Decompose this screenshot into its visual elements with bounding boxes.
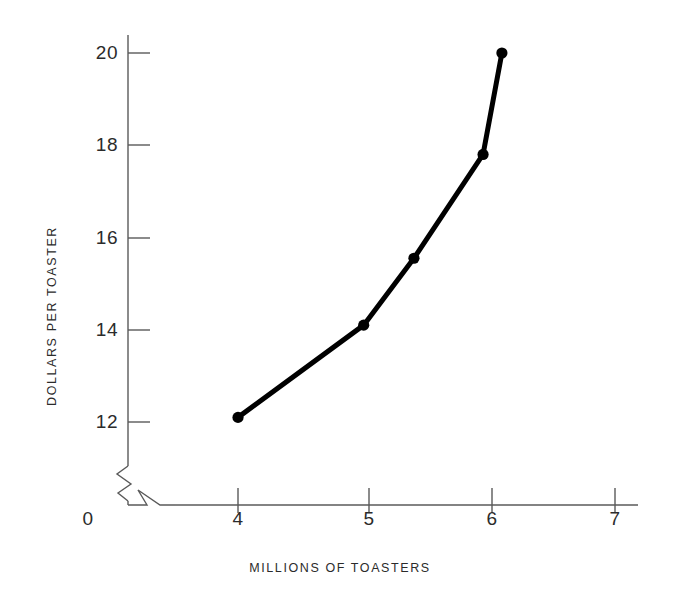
data-point [496, 47, 507, 58]
y-tick-label-12: 12 [60, 411, 118, 433]
x-tick-label-7: 7 [585, 508, 645, 530]
y-tick-label-14: 14 [60, 319, 118, 341]
chart-plot-area [0, 0, 680, 596]
data-point [232, 412, 243, 423]
y-axis-title: DOLLARS PER TOASTER [45, 226, 59, 406]
data-point [477, 149, 488, 160]
data-point [358, 320, 369, 331]
y-tick-label-18: 18 [60, 134, 118, 156]
y-tick-label-20: 20 [60, 42, 118, 64]
data-point [408, 253, 419, 264]
data-series-line [238, 53, 502, 417]
x-tick-label-4: 4 [208, 508, 268, 530]
chart-container: 20 18 16 14 12 0 4 5 6 7 MILLIONS OF TOA… [0, 0, 680, 596]
x-tick-label-6: 6 [462, 508, 522, 530]
x-tick-label-0: 0 [58, 508, 118, 530]
x-axis-break-mark [128, 490, 175, 505]
x-axis-title: MILLIONS OF TOASTERS [0, 561, 680, 575]
x-tick-label-5: 5 [339, 508, 399, 530]
data-point-markers [232, 47, 507, 423]
y-axis-break-mark [117, 466, 131, 501]
y-tick-label-16: 16 [60, 227, 118, 249]
